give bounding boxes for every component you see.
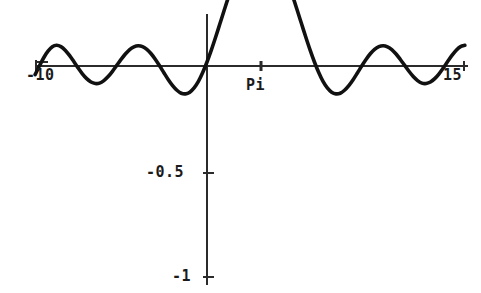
x-axis-pi-label: Pi xyxy=(246,78,265,93)
plot-canvas xyxy=(0,0,481,293)
x-axis-min-label: -10 xyxy=(26,68,55,83)
x-axis-max-label: 15 xyxy=(443,68,462,83)
y-axis-minus-half-label: -0.5 xyxy=(146,165,184,180)
y-axis-minus-one-label: -1 xyxy=(172,269,191,284)
plot-figure: -10 15 Pi -0.5 -1 xyxy=(0,0,481,293)
